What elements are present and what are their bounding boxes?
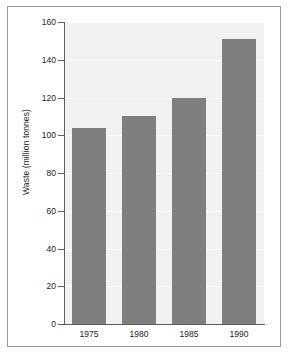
- y-tick-label: 100: [12, 130, 56, 140]
- bars-layer: [64, 22, 264, 324]
- x-tick-label-1975: 1975: [80, 329, 99, 339]
- x-axis-line: [64, 324, 265, 325]
- y-axis-tick-labels: 020406080100120140160: [8, 7, 56, 348]
- y-tick-label: 140: [12, 55, 56, 65]
- y-tick-mark: [58, 173, 64, 174]
- bar-chart-figure: Waste (million tonnes) 02040608010012014…: [8, 7, 282, 348]
- x-tick-label-1980: 1980: [130, 329, 149, 339]
- y-tick-mark: [58, 22, 64, 23]
- bar-1985: [172, 98, 206, 325]
- y-tick-mark: [58, 211, 64, 212]
- y-tick-mark: [58, 60, 64, 61]
- y-tick-label: 60: [12, 206, 56, 216]
- y-tick-mark: [58, 286, 64, 287]
- y-tick-mark: [58, 135, 64, 136]
- x-tick-label-1990: 1990: [230, 329, 249, 339]
- bar-1980: [122, 116, 156, 324]
- x-tick-label-1985: 1985: [180, 329, 199, 339]
- chart-frame-border: Waste (million tonnes) 02040608010012014…: [7, 6, 281, 347]
- y-tick-label: 80: [12, 168, 56, 178]
- y-tick-mark: [58, 324, 64, 325]
- y-tick-mark: [58, 98, 64, 99]
- y-tick-label: 20: [12, 281, 56, 291]
- y-tick-label: 0: [12, 319, 56, 329]
- y-tick-label: 160: [12, 17, 56, 27]
- bar-1990: [222, 39, 256, 324]
- bar-1975: [72, 128, 106, 324]
- y-tick-label: 120: [12, 93, 56, 103]
- y-tick-mark: [58, 249, 64, 250]
- chart-page: Waste (million tonnes) 02040608010012014…: [0, 0, 288, 360]
- y-tick-label: 40: [12, 244, 56, 254]
